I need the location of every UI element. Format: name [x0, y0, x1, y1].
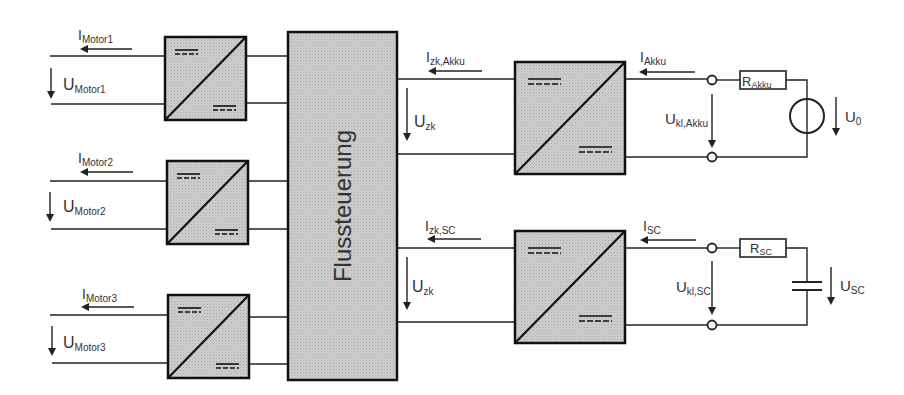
dc-link-current-akku: Izk,Akku [426, 49, 465, 67]
dcdc-converter-sc [515, 231, 625, 343]
dcdc-converter-motor1 [165, 37, 246, 120]
motor-branch-2: IMotor2 UMotor2 [50, 150, 288, 244]
dcdc-converter-motor2 [167, 161, 248, 244]
capacitor-icon [792, 282, 822, 290]
sc-current-label: ISC [643, 218, 661, 236]
dc-link-voltage-sc: Uzk [412, 278, 435, 297]
flow-control-label: Flussteuerung [329, 130, 356, 282]
flow-control-block: Flussteuerung [288, 32, 397, 380]
terminal-icon [708, 321, 717, 330]
dc-link-current-sc: Izk,SC [425, 218, 456, 236]
motor-branch-1: IMotor1 UMotor1 [50, 27, 288, 120]
terminal-icon [708, 76, 717, 85]
voltage-label-motor2: UMotor2 [63, 198, 106, 217]
terminal-icon [708, 153, 717, 162]
supercap-branch: Izk,SC Uzk ISC Ukl,SC RSC USC [397, 218, 865, 343]
voltage-label-motor1: UMotor1 [63, 76, 106, 95]
voltage-label-motor3: UMotor3 [63, 334, 106, 353]
terminal-icon [708, 244, 717, 253]
dcdc-converter-akku [515, 62, 625, 174]
dcdc-converter-motor3 [168, 295, 249, 378]
current-label-motor2: IMotor2 [78, 150, 113, 168]
terminal-voltage-sc: Ukl,SC [676, 278, 711, 297]
power-flow-diagram: IMotor1 UMotor1 IMotor2 UMotor2 IMotor3 … [0, 0, 904, 395]
current-label-motor3: IMotor3 [82, 286, 117, 304]
motor-branch-3: IMotor3 UMotor3 [50, 286, 288, 378]
dc-link-voltage-akku: Uzk [414, 113, 437, 132]
akku-current-label: IAkku [640, 49, 666, 67]
terminal-voltage-akku: Ukl,Akku [665, 110, 708, 129]
akku-branch: Izk,Akku Uzk IAkku Ukl,Akku RAkku U0 [397, 49, 862, 174]
capacitor-voltage-label: USC [840, 277, 865, 296]
current-label-motor1: IMotor1 [78, 27, 113, 45]
source-voltage-label: U0 [845, 108, 862, 127]
